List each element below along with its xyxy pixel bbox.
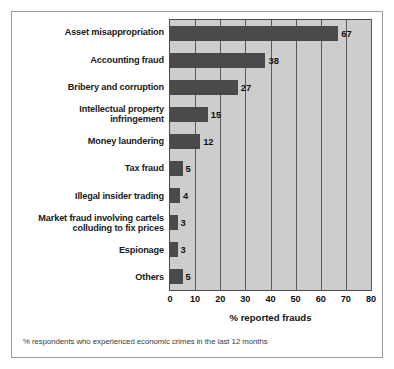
- x-tick-label: 60: [316, 294, 326, 304]
- category-label: Tax fraud: [12, 155, 169, 182]
- bar: [170, 80, 238, 95]
- chart-body: Asset misappropriationAccounting fraudBr…: [12, 12, 382, 292]
- plot-area: 673827151254335: [169, 19, 372, 291]
- bar-row: 15: [170, 101, 371, 128]
- x-tick-label: 50: [291, 294, 301, 304]
- category-label: Espionage: [12, 237, 169, 264]
- x-tick-label: 20: [215, 294, 225, 304]
- chart-figure: Asset misappropriationAccounting fraudBr…: [11, 11, 383, 358]
- bar-row: 4: [170, 182, 371, 209]
- x-axis-title: % reported frauds: [169, 312, 372, 323]
- bar-series: 673827151254335: [170, 20, 371, 290]
- x-tick-label: 10: [190, 294, 200, 304]
- bar: [170, 161, 183, 176]
- bar-value-label: 15: [211, 109, 221, 120]
- bar-value-label: 5: [186, 271, 191, 282]
- bar: [170, 134, 200, 149]
- category-label: Asset misappropriation: [12, 19, 169, 46]
- x-tick-label: 40: [265, 294, 275, 304]
- bar: [170, 215, 178, 230]
- bar: [170, 269, 183, 284]
- bar-value-label: 67: [341, 28, 351, 39]
- bar-value-label: 12: [203, 136, 213, 147]
- x-tick-label: 70: [341, 294, 351, 304]
- bar: [170, 107, 208, 122]
- chart-footnote: % respondents who experienced economic c…: [23, 337, 374, 346]
- gridline: [371, 20, 372, 290]
- bar: [170, 242, 178, 257]
- category-label: Illegal insider trading: [12, 182, 169, 209]
- bar-row: 12: [170, 128, 371, 155]
- category-label: Intellectual propertyinfringement: [12, 101, 169, 128]
- category-label: Accounting fraud: [12, 46, 169, 73]
- bar-row: 5: [170, 155, 371, 182]
- bar-value-label: 3: [181, 244, 186, 255]
- category-label: Market fraud involving cartelscolluding …: [12, 209, 169, 236]
- bar-row: 67: [170, 20, 371, 47]
- bar-value-label: 4: [183, 190, 188, 201]
- category-label: Others: [12, 264, 169, 291]
- bar-value-label: 38: [268, 55, 278, 66]
- bar-row: 3: [170, 209, 371, 236]
- bar-value-label: 3: [181, 217, 186, 228]
- bar-row: 27: [170, 74, 371, 101]
- category-axis-labels: Asset misappropriationAccounting fraudBr…: [12, 19, 169, 291]
- bar: [170, 26, 338, 41]
- bar-row: 3: [170, 236, 371, 263]
- bar-value-label: 5: [186, 163, 191, 174]
- category-label: Money laundering: [12, 128, 169, 155]
- bar: [170, 53, 265, 68]
- bar-value-label: 27: [241, 82, 251, 93]
- x-axis-ticks: 01020304050607080: [169, 293, 372, 309]
- bar: [170, 188, 180, 203]
- x-tick-label: 0: [167, 294, 172, 304]
- x-tick-label: 30: [240, 294, 250, 304]
- bar-row: 5: [170, 263, 371, 290]
- bar-row: 38: [170, 47, 371, 74]
- category-label: Bribery and corruption: [12, 73, 169, 100]
- x-tick-label: 80: [366, 294, 376, 304]
